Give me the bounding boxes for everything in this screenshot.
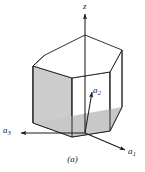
- a1-axis-arrow: [85, 133, 125, 150]
- hexagonal-prism-drawing: [0, 0, 145, 172]
- axis-label-a3: a3: [3, 126, 11, 135]
- axis-label-a2-subscript: 2: [98, 89, 101, 96]
- figure-caption: (a): [0, 155, 145, 164]
- axis-label-z: z: [83, 2, 87, 11]
- axis-label-a2: a2: [93, 86, 101, 95]
- axis-label-a3-subscript: 3: [8, 129, 11, 136]
- hexagonal-prism-figure: z a1 a2 a3 (a): [0, 0, 145, 172]
